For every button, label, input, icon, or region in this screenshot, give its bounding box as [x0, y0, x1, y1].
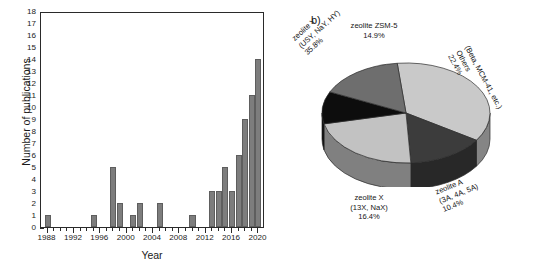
x-tick-mark-2008: [178, 228, 179, 233]
bar-1999: [117, 203, 123, 227]
y-tick-label-0: 0: [31, 224, 36, 232]
figure-container: a) Number of publications 01234567891011…: [0, 0, 542, 269]
x-tick-label-1996: 1996: [90, 233, 108, 242]
x-axis-title: Year: [40, 249, 264, 261]
x-tick-mark-2000: [126, 228, 127, 233]
x-tick-mark-2013: [211, 228, 212, 231]
x-axis-tick-labels: 198819921996200020042008201220162020: [0, 233, 271, 245]
pie-label-zeolite-x-detail: (13X, NaX): [350, 203, 388, 213]
x-tick-mark-1999: [119, 228, 120, 231]
x-tick-mark-2018: [244, 228, 245, 231]
x-tick-mark-2012: [205, 228, 206, 233]
y-tick-label-2: 2: [31, 200, 36, 208]
panel-a-bar-chart: a) Number of publications 01234567891011…: [0, 0, 271, 269]
bar-2002: [137, 203, 143, 227]
x-tick-mark-2001: [132, 228, 133, 231]
y-tick-label-12: 12: [27, 80, 36, 88]
x-tick-mark-2005: [159, 228, 160, 231]
x-tick-label-2012: 2012: [196, 233, 214, 242]
bar-2010: [189, 215, 195, 227]
bar-1988: [45, 215, 51, 227]
bar-2015: [222, 167, 228, 227]
bar-2020: [255, 59, 261, 227]
y-tick-label-7: 7: [31, 140, 36, 148]
x-tick-mark-2007: [172, 228, 173, 231]
bar-2005: [157, 203, 163, 227]
x-tick-mark-1997: [106, 228, 107, 231]
x-tick-mark-2014: [218, 228, 219, 231]
y-tick-label-14: 14: [27, 56, 36, 64]
pie-label-zsm5: zeolite ZSM-5 14.9%: [351, 21, 398, 40]
y-tick-label-15: 15: [27, 44, 36, 52]
x-tick-mark-2004: [152, 228, 153, 233]
y-tick-label-10: 10: [27, 104, 36, 112]
x-tick-mark-2011: [198, 228, 199, 231]
bar-2016: [229, 191, 235, 227]
bar-2013: [209, 191, 215, 227]
pie-label-zeolite-x: zeolite X (13X, NaX) 16.4%: [350, 193, 388, 222]
x-tick-label-2004: 2004: [143, 233, 161, 242]
panel-b-pie-chart: b) zeolite ZSM-5 14.9% zeolite Y (USY, N…: [271, 0, 542, 269]
bar-1995: [91, 215, 97, 227]
x-tick-mark-1996: [99, 228, 100, 233]
pie-label-zsm5-name: zeolite ZSM-5: [351, 21, 398, 31]
y-tick-label-13: 13: [27, 68, 36, 76]
y-tick-label-5: 5: [31, 164, 36, 172]
y-tick-label-9: 9: [31, 116, 36, 124]
x-tick-label-2000: 2000: [117, 233, 135, 242]
x-tick-mark-1993: [80, 228, 81, 231]
pie-label-zeolite-x-name: zeolite X: [350, 193, 388, 203]
x-tick-mark-2003: [145, 228, 146, 231]
x-tick-mark-2009: [185, 228, 186, 231]
x-tick-label-2020: 2020: [248, 233, 266, 242]
x-tick-mark-1994: [86, 228, 87, 231]
pie-label-zeolite-x-value: 16.4%: [350, 212, 388, 222]
y-tick-label-17: 17: [27, 20, 36, 28]
x-tick-mark-1989: [53, 228, 54, 231]
x-tick-mark-1991: [66, 228, 67, 231]
pie-label-zsm5-value: 14.9%: [351, 31, 398, 41]
x-tick-mark-2019: [251, 228, 252, 231]
y-axis-tick-labels: 0123456789101112131415161718: [8, 12, 36, 228]
x-tick-mark-1995: [93, 228, 94, 231]
x-tick-label-1992: 1992: [64, 233, 82, 242]
bar-2017: [236, 155, 242, 227]
x-tick-mark-2016: [231, 228, 232, 233]
x-tick-mark-1990: [60, 228, 61, 231]
bar-2014: [216, 191, 222, 227]
y-tick-label-4: 4: [31, 176, 36, 184]
bar-2018: [242, 119, 248, 227]
x-tick-mark-2017: [238, 228, 239, 231]
x-tick-mark-1992: [73, 228, 74, 233]
bar-1998: [110, 167, 116, 227]
bar-2019: [249, 95, 255, 227]
x-tick-mark-2010: [192, 228, 193, 231]
y-tick-label-1: 1: [31, 212, 36, 220]
y-tick-label-16: 16: [27, 32, 36, 40]
x-tick-mark-2015: [224, 228, 225, 231]
y-tick-label-3: 3: [31, 188, 36, 196]
x-tick-mark-2002: [139, 228, 140, 231]
x-tick-label-1988: 1988: [38, 233, 56, 242]
y-tick-label-6: 6: [31, 152, 36, 160]
x-tick-label-2008: 2008: [169, 233, 187, 242]
bar-2001: [130, 215, 136, 227]
x-tick-mark-1988: [47, 228, 48, 233]
x-tick-label-2016: 2016: [222, 233, 240, 242]
bars-layer: [41, 13, 263, 227]
plot-area: [40, 12, 264, 228]
x-tick-mark-2020: [257, 228, 258, 233]
y-tick-label-18: 18: [27, 8, 36, 16]
x-tick-mark-1998: [112, 228, 113, 231]
y-tick-label-11: 11: [28, 92, 36, 100]
x-tick-mark-2006: [165, 228, 166, 231]
y-tick-label-8: 8: [31, 128, 36, 136]
